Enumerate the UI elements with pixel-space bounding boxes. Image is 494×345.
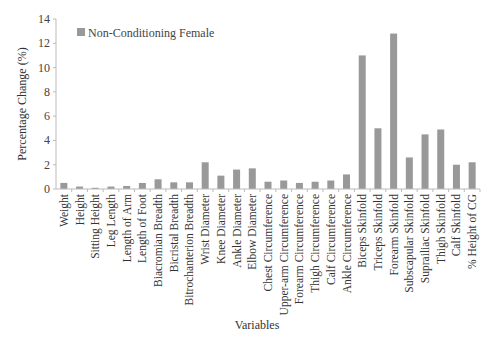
bar [343,174,350,189]
x-category-label: Leg Length [105,194,118,248]
bar [296,183,303,189]
y-tick-label: 6 [44,109,50,123]
y-tick-label: 0 [44,182,50,196]
bar [186,182,193,189]
y-axis-title: Percentage Change (%) [15,47,29,160]
bar [265,182,272,189]
bar [390,34,397,189]
x-category-label: Elbow Diameter [246,194,258,270]
x-category-label: Thigh Skinfold [435,194,448,264]
bar [312,182,319,189]
x-category-label: Ankle Diameter [231,194,243,268]
x-category-label: % Height of CG [466,194,479,269]
x-category-label: Knee Diameter [215,194,227,264]
y-tick-label: 10 [38,61,50,75]
y-tick-label: 8 [44,85,50,99]
bar [437,130,444,190]
bar [139,183,146,189]
bar [202,162,209,189]
bar [60,183,67,189]
bar [327,181,334,190]
x-category-label: Suprailiac Skinfold [419,194,432,283]
bar [217,176,224,189]
x-category-label: Calf Circumference [325,194,337,285]
x-category-label: Forearm Circumference [293,194,305,304]
bar [280,181,287,190]
x-category-label: Forearm Skinfold [388,194,400,276]
bar [406,157,413,189]
x-category-label: Chest Circumference [262,194,274,291]
y-axis: 02468101214 [38,12,56,196]
y-tick-label: 14 [38,12,50,26]
bars [60,34,475,189]
bar [453,165,460,189]
x-category-label: Wrist Diameter [199,194,211,265]
bar [374,128,381,189]
bar [359,55,366,189]
bar [155,179,162,189]
bar [170,182,177,189]
y-tick-label: 2 [44,158,50,172]
bar-chart: 02468101214 WeightHeightSitting HeightLe… [0,0,494,345]
x-category-label: Length of Arm [121,194,134,262]
x-category-label: Length of Foot [136,193,149,263]
bar [233,170,240,189]
x-category-label: Sitting Height [89,193,102,259]
x-category-label: Upper-arm Circumference [278,194,291,315]
x-category-label: Thigh Circumference [309,194,322,293]
x-axis-title: Variables [235,318,280,332]
x-category-label: Biacromian Breadth [152,194,164,287]
x-category-label: Weight [58,193,71,227]
x-category-label: Bicristal Breadth [168,194,180,272]
bar [249,168,256,189]
bar [469,162,476,189]
x-category-label: Biceps Skinfold [356,194,369,268]
x-category-label: Subscapular Skinfold [403,194,416,293]
x-category-label: Height [74,193,87,225]
legend: Non-Conditioning Female [77,26,214,40]
y-tick-label: 4 [44,133,50,147]
legend-swatch [77,28,85,36]
x-category-label: Calf Skinfold [450,194,462,257]
x-category-label: Bitrochanterion Breadth [183,194,195,306]
y-tick-label: 12 [38,36,50,50]
x-category-label: Ankle Circumference [341,194,353,293]
legend-label: Non-Conditioning Female [88,26,214,40]
x-axis: WeightHeightSitting HeightLeg LengthLeng… [56,189,480,315]
x-category-label: Triceps Skinfold [372,194,385,271]
bar [422,134,429,189]
